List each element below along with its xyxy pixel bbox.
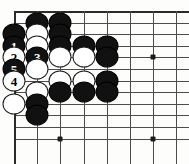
stone-black[interactable]	[72, 82, 95, 103]
stone-black[interactable]	[95, 82, 118, 103]
stones-layer: 12354	[0, 0, 189, 164]
stone-white[interactable]	[49, 47, 72, 68]
stone-black[interactable]	[49, 82, 72, 103]
move-number-label: 4	[4, 71, 25, 90]
numbered-stone-white[interactable]: 4	[3, 70, 26, 91]
go-board-diagram: 12354	[0, 0, 189, 164]
stone-white[interactable]	[72, 47, 95, 68]
stone-white[interactable]	[3, 93, 26, 114]
stone-black[interactable]	[26, 105, 49, 126]
stone-black[interactable]	[95, 47, 118, 68]
stone-white[interactable]	[26, 59, 49, 80]
